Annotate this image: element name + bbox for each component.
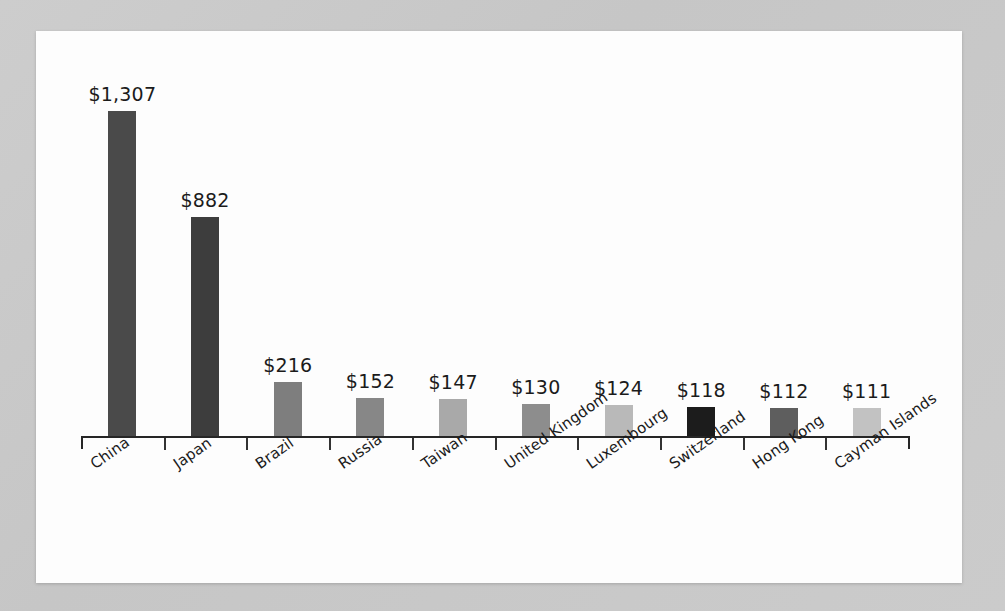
bar-value-label: $124 — [574, 377, 664, 399]
x-axis-tick — [495, 438, 497, 450]
chart-card: $1,307China$882Japan$216Brazil$152Russia… — [36, 31, 962, 583]
x-axis-tick — [825, 438, 827, 450]
bar-value-label: $112 — [739, 380, 829, 402]
x-axis-end-tick — [908, 436, 910, 449]
bar-china[interactable] — [108, 111, 136, 436]
bar-value-label: $216 — [243, 354, 333, 376]
x-axis-category-label: Brazil — [252, 434, 297, 473]
x-axis-tick — [164, 438, 166, 450]
x-axis-tick — [246, 438, 248, 450]
x-axis-tick — [412, 438, 414, 450]
x-axis-tick — [329, 438, 331, 450]
bar-value-label: $147 — [408, 371, 498, 393]
bar-japan[interactable] — [191, 217, 219, 436]
bar-value-label: $111 — [822, 380, 912, 402]
bar-chart-plot-area: $1,307China$882Japan$216Brazil$152Russia… — [36, 31, 962, 583]
x-axis-tick — [660, 438, 662, 450]
bar-brazil[interactable] — [274, 382, 302, 436]
bar-taiwan[interactable] — [439, 399, 467, 436]
x-axis-category-label: China — [87, 433, 133, 473]
x-axis-tick — [577, 438, 579, 450]
bar-value-label: $1,307 — [77, 83, 167, 105]
x-axis-category-label: Japan — [170, 434, 215, 473]
bar-value-label: $882 — [160, 189, 250, 211]
bar-value-label: $152 — [325, 370, 415, 392]
bar-value-label: $118 — [656, 379, 746, 401]
bar-value-label: $130 — [491, 376, 581, 398]
x-axis-tick — [743, 438, 745, 450]
x-axis-start-tick — [81, 436, 83, 449]
bar-russia[interactable] — [356, 398, 384, 436]
